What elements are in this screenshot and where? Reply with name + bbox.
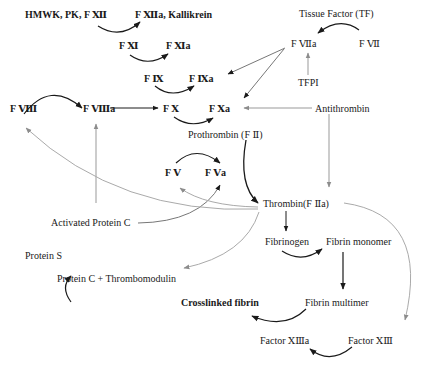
node-f7a: F Ⅶa [291,38,316,50]
edge-fibrinogen-to-monomer [282,249,322,257]
edge-f9-to-f9a [155,86,194,93]
node-f5a: F Ⅴa [205,167,226,179]
edge-f7a-to-f9a [228,48,285,74]
edge-f13-to-f13a [310,347,352,357]
node-f8: F Ⅷ [10,103,37,115]
node-f7: F Ⅶ [359,38,380,50]
edge-f5-to-f5a [176,154,220,164]
node-thrombin: Thrombin(F Ⅱa) [263,198,329,210]
node-prothrombin: Prothrombin (F Ⅱ) [188,129,263,141]
edge-prothrombin-to-thrombin [244,140,258,203]
edge-multimer-to-crosslinked [252,309,306,322]
node-fibrinogen: Fibrinogen [265,236,309,248]
node-fibrin-monomer: Fibrin monomer [326,236,391,248]
node-protein-s: Protein S [25,250,62,262]
node-tfpi: TFPI [298,77,319,89]
node-hmwk: HMWK, PK, F Ⅻ [25,9,107,21]
edge-f10-to-f10a [174,117,213,124]
edge-f7-to-f7a [318,24,359,33]
edge-thrombin-to-f5 [180,188,258,207]
node-crosslinked-fibrin: Crosslinked fibrin [181,297,259,309]
edge-thrombin-to-pctm [184,212,259,268]
node-f9a: F Ⅸa [189,73,214,85]
node-f11: F Ⅺ [119,40,139,52]
node-tissue-factor: Tissue Factor (TF) [299,8,374,20]
node-f10a: F Ⅹa [209,103,230,115]
node-protein-c-thrombomodulin: Protein C + Thrombomodulin [57,273,176,285]
coagulation-cascade-diagram: HMWK, PK, F Ⅻ F Ⅻa, Kallikrein F Ⅺ F Ⅺa … [0,0,436,367]
node-f12a: F Ⅻa, Kallikrein [135,9,212,21]
edge-f7a-to-f10a [244,49,284,98]
node-f8a: F Ⅷa [83,103,115,115]
node-f11a: F Ⅺa [166,40,191,52]
node-antithrombin: Antithrombin [315,103,369,115]
node-factor-13: Factor ⅩⅢ [348,335,393,347]
node-activated-protein-c: Activated Protein C [51,217,130,229]
edges-layer [0,0,436,367]
node-f9: F Ⅸ [144,73,164,85]
edge-hmwk-to-f12a [98,22,140,32]
node-f10: F Ⅹ [163,103,179,115]
node-fibrin-multimer: Fibrin multimer [305,297,369,309]
node-factor-13a: Factor ⅩⅢa [260,335,309,347]
node-f5: F Ⅴ [165,167,181,179]
edge-f11-to-f11a [130,54,168,61]
